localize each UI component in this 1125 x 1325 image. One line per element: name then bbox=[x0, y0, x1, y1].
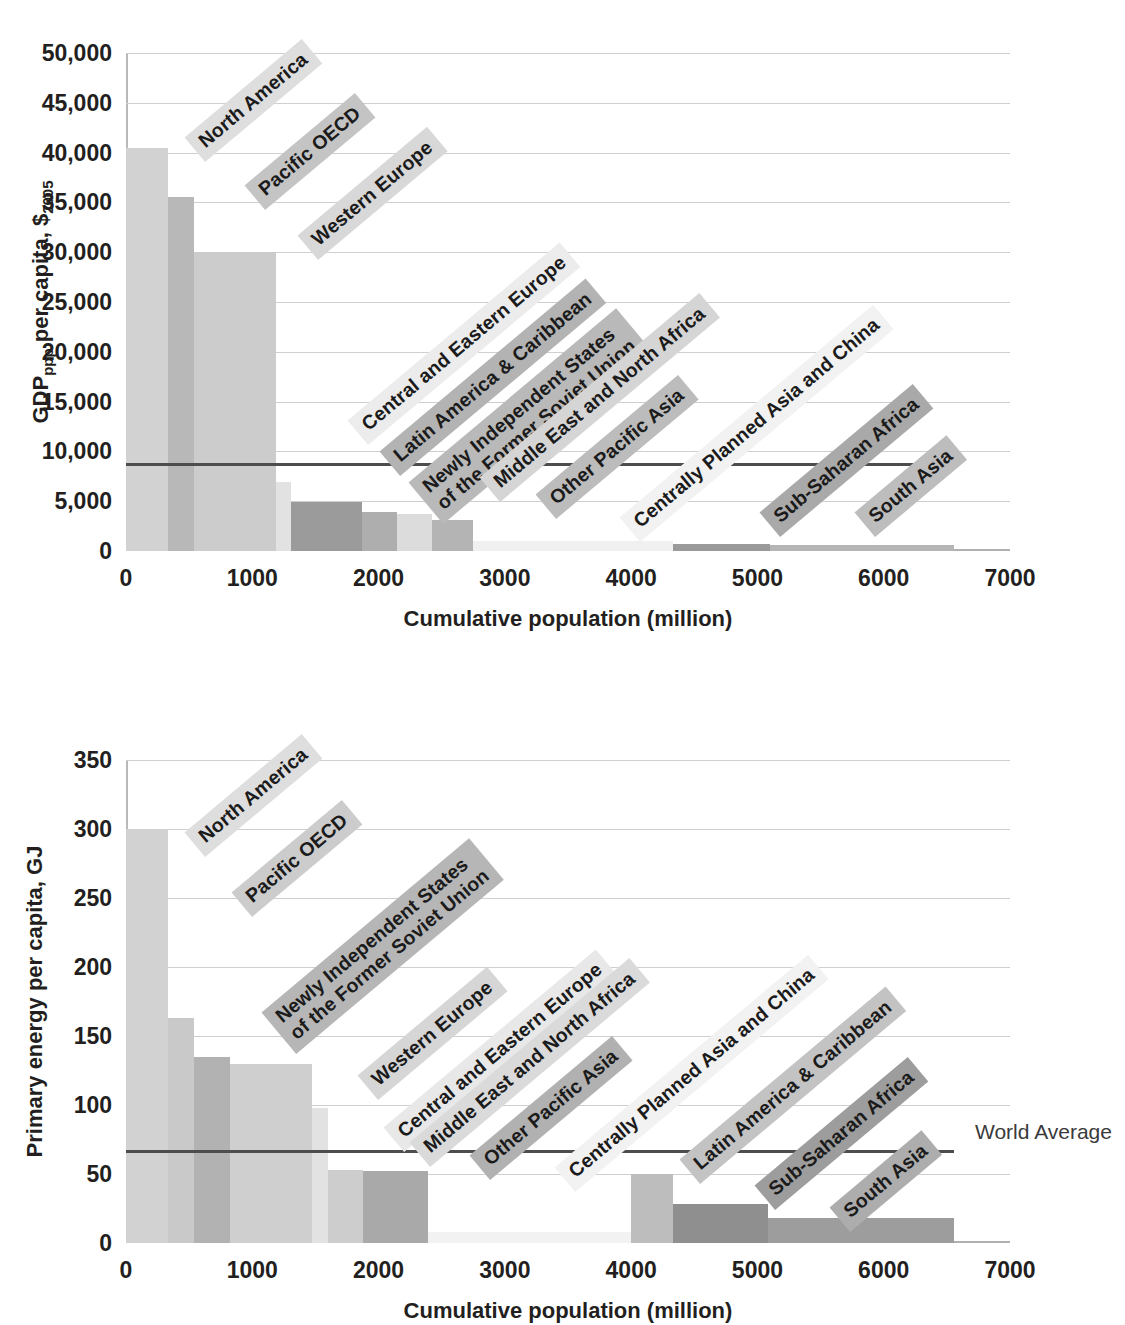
world-average-label: World Average bbox=[975, 1120, 1112, 1144]
x-tick-label: 5000 bbox=[732, 1257, 783, 1284]
x-tick-label: 0 bbox=[120, 565, 133, 592]
chart-gdp-per-capita: 05,00010,00015,00020,00025,00030,00035,0… bbox=[0, 0, 1125, 650]
y-tick-label: 250 bbox=[74, 885, 112, 912]
bar-newly-independent-states-of-the-former-soviet-union bbox=[362, 512, 397, 551]
bar-north-america bbox=[126, 148, 168, 551]
y-tick-label: 50 bbox=[86, 1161, 112, 1188]
y-tick-label: 300 bbox=[74, 816, 112, 843]
x-tick-label: 2000 bbox=[353, 565, 404, 592]
y-axis-title-gdp-sub2: 2005 bbox=[39, 180, 56, 213]
x-tick-label: 1000 bbox=[227, 1257, 278, 1284]
x-axis-title-energy: Cumulative population (million) bbox=[126, 1298, 1010, 1324]
bar-other-pacific-asia bbox=[363, 1171, 427, 1243]
y-tick-label: 100 bbox=[74, 1092, 112, 1119]
y-tick-label: 200 bbox=[74, 954, 112, 981]
x-tick-label: 6000 bbox=[858, 565, 909, 592]
gridline bbox=[126, 53, 1010, 54]
bar-pacific-oecd bbox=[168, 1018, 193, 1243]
gridline bbox=[126, 760, 1010, 761]
bar-other-pacific-asia bbox=[432, 520, 474, 551]
x-tick-label: 7000 bbox=[984, 565, 1035, 592]
y-tick-label: 0 bbox=[99, 538, 112, 565]
bar-middle-east-and-north-africa bbox=[397, 514, 432, 551]
bar-central-and-eastern-europe bbox=[276, 482, 291, 551]
bar-pacific-oecd bbox=[168, 197, 193, 551]
bar-centrally-planned-asia-and-china bbox=[473, 541, 673, 551]
y-axis-title-gdp-main: GDP bbox=[28, 376, 53, 424]
x-axis-title-gdp: Cumulative population (million) bbox=[126, 606, 1010, 632]
x-tick-label: 5000 bbox=[732, 565, 783, 592]
x-tick-label: 6000 bbox=[858, 1257, 909, 1284]
gridline bbox=[126, 967, 1010, 968]
bar-western-europe bbox=[230, 1064, 312, 1243]
x-tick-label: 7000 bbox=[984, 1257, 1035, 1284]
x-tick-label: 3000 bbox=[479, 565, 530, 592]
y-tick-label: 350 bbox=[74, 747, 112, 774]
bar-sub-saharan-africa bbox=[673, 544, 770, 551]
bar-latin-america-caribbean bbox=[631, 1174, 673, 1243]
y-axis-title-gdp-sub1: ppp bbox=[39, 348, 56, 376]
y-tick-label: 0 bbox=[99, 1230, 112, 1257]
chart-primary-energy-per-capita: 050100150200250300350 010002000300040005… bbox=[0, 660, 1125, 1325]
y-axis-title-gdp-mid: per capita, $ bbox=[28, 214, 53, 349]
bar-south-asia bbox=[770, 545, 954, 551]
y-tick-label: 150 bbox=[74, 1023, 112, 1050]
bar-centrally-planned-asia-and-china bbox=[428, 1232, 631, 1243]
bar-middle-east-and-north-africa bbox=[328, 1170, 363, 1243]
bar-sub-saharan-africa bbox=[673, 1204, 768, 1243]
x-tick-label: 0 bbox=[120, 1257, 133, 1284]
bar-latin-america-caribbean bbox=[291, 502, 362, 551]
x-tick-label: 4000 bbox=[606, 1257, 657, 1284]
bar-central-and-eastern-europe bbox=[312, 1108, 328, 1243]
y-tick-label: 5,000 bbox=[54, 488, 112, 515]
x-tick-label: 1000 bbox=[227, 565, 278, 592]
x-tick-label: 3000 bbox=[479, 1257, 530, 1284]
bar-north-america bbox=[126, 829, 168, 1243]
y-axis-title-energy: Primary energy per capita, GJ bbox=[22, 760, 48, 1243]
bar-western-europe bbox=[194, 252, 276, 551]
y-axis-title-gdp: GDPppp per capita, $2005 bbox=[28, 53, 56, 551]
x-tick-label: 4000 bbox=[606, 565, 657, 592]
gridline bbox=[126, 153, 1010, 154]
gridline bbox=[126, 829, 1010, 830]
x-tick-label: 2000 bbox=[353, 1257, 404, 1284]
